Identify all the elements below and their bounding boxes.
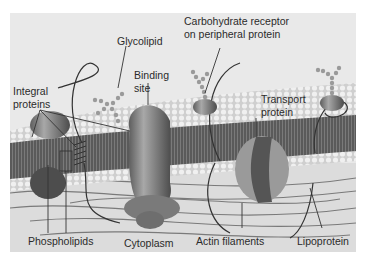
membrane-illustration (10, 13, 356, 252)
label-cytoplasm: Cytoplasm (124, 237, 174, 249)
label-binding-site-line1: Binding (134, 69, 169, 81)
label-integral-proteins-line2: proteins (13, 98, 50, 110)
label-glycolipid: Glycolipid (117, 35, 163, 47)
membrane-diagram: Glycolipid Carbohydrate receptor on peri… (10, 13, 356, 252)
label-phospholipids: Phospholipids (28, 235, 93, 247)
label-transport-protein-line1: Transport (261, 93, 306, 105)
label-carbohydrate-receptor-line2: on peripheral protein (184, 28, 280, 40)
label-carbohydrate-receptor-line1: Carbohydrate receptor (184, 15, 289, 27)
label-transport-protein-line2: protein (261, 106, 293, 118)
label-binding-site-line2: site (134, 82, 150, 94)
label-lipoprotein: Lipoprotein (297, 235, 349, 247)
label-actin-filaments: Actin filaments (196, 235, 264, 247)
label-integral-proteins-line1: Integral (13, 85, 48, 97)
